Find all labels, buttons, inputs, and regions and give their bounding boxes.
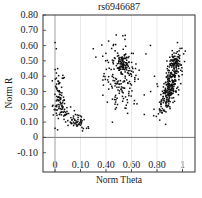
- data-point: [165, 104, 167, 106]
- data-point: [112, 121, 114, 123]
- data-point: [171, 97, 173, 99]
- data-point: [57, 99, 59, 101]
- data-point: [102, 95, 104, 97]
- data-point: [107, 101, 109, 103]
- data-point: [114, 99, 116, 101]
- data-point: [124, 76, 126, 78]
- data-point: [167, 94, 169, 96]
- data-point: [127, 72, 129, 74]
- data-point: [150, 45, 152, 47]
- data-point: [176, 73, 178, 75]
- data-point: [173, 65, 175, 67]
- data-point: [56, 83, 58, 85]
- data-point: [80, 119, 82, 121]
- data-point: [163, 96, 165, 98]
- data-point: [181, 67, 183, 69]
- data-point: [66, 111, 68, 113]
- data-point: [103, 73, 105, 75]
- data-point: [171, 66, 173, 68]
- data-point: [57, 129, 59, 131]
- data-point: [153, 115, 155, 117]
- data-point: [172, 54, 174, 56]
- data-point: [58, 118, 60, 120]
- data-point: [169, 64, 171, 66]
- data-point: [64, 103, 66, 105]
- data-point: [87, 126, 89, 128]
- data-point: [178, 50, 180, 52]
- data-point: [166, 72, 168, 74]
- data-point: [166, 101, 168, 103]
- data-point: [161, 112, 163, 114]
- data-point: [177, 63, 179, 65]
- data-point: [120, 83, 122, 85]
- data-point: [126, 59, 128, 61]
- data-point: [131, 70, 133, 72]
- data-point: [56, 115, 58, 117]
- data-point: [129, 74, 131, 76]
- data-point: [168, 72, 170, 74]
- data-point: [64, 109, 66, 111]
- data-point: [83, 119, 85, 121]
- data-point: [73, 117, 75, 119]
- data-point: [123, 98, 125, 100]
- data-point: [61, 103, 63, 105]
- data-point: [56, 88, 58, 90]
- data-point: [73, 125, 75, 127]
- data-point: [131, 53, 133, 55]
- data-point: [166, 84, 168, 86]
- data-point: [65, 112, 67, 114]
- data-point: [75, 114, 77, 116]
- data-point: [181, 71, 183, 73]
- data-point: [168, 78, 170, 80]
- data-point: [169, 97, 171, 99]
- data-point: [65, 114, 67, 116]
- data-point: [120, 65, 122, 67]
- data-point: [159, 101, 161, 103]
- data-point: [73, 115, 75, 117]
- data-point: [62, 106, 64, 108]
- data-point: [162, 91, 164, 93]
- data-point: [178, 79, 180, 81]
- data-point: [168, 85, 170, 87]
- data-point: [60, 99, 62, 101]
- data-point: [57, 104, 59, 106]
- data-point: [108, 88, 110, 90]
- data-point: [58, 106, 60, 108]
- data-point: [165, 102, 167, 104]
- data-point: [66, 107, 68, 109]
- data-point: [169, 89, 171, 91]
- data-point: [117, 89, 119, 91]
- data-point: [171, 84, 173, 86]
- data-point: [176, 67, 178, 69]
- data-point: [172, 90, 174, 92]
- data-point: [58, 91, 60, 93]
- data-point: [137, 78, 139, 80]
- data-point: [95, 56, 97, 58]
- data-point: [159, 109, 161, 111]
- data-point: [125, 62, 127, 64]
- data-point: [108, 62, 110, 64]
- data-point: [126, 56, 128, 58]
- data-point: [125, 68, 127, 70]
- data-point: [125, 45, 127, 47]
- data-point: [172, 74, 174, 76]
- data-point: [63, 99, 64, 101]
- data-point: [180, 83, 182, 85]
- data-point: [77, 119, 79, 121]
- data-point: [172, 88, 174, 90]
- data-point: [108, 76, 110, 78]
- data-point: [54, 94, 56, 96]
- data-point: [135, 63, 137, 65]
- data-point: [118, 57, 120, 59]
- data-point: [168, 100, 170, 102]
- data-point: [63, 119, 64, 121]
- data-point: [125, 96, 127, 98]
- data-point: [62, 77, 64, 79]
- data-point: [145, 53, 147, 55]
- data-point: [181, 74, 183, 76]
- data-point: [129, 88, 131, 90]
- data-point: [79, 122, 81, 124]
- data-point: [172, 92, 174, 94]
- data-point: [144, 114, 146, 116]
- data-point: [167, 68, 169, 70]
